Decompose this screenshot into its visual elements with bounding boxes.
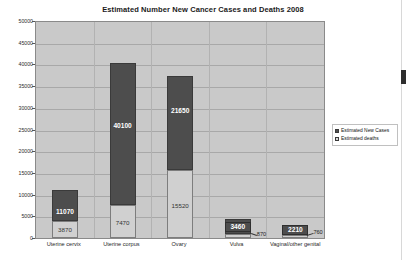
- x-axis-label: Uterine cervix: [35, 241, 93, 247]
- bar-label-deaths: 870: [257, 230, 266, 238]
- bar-label-new-cases: 2210: [282, 225, 308, 235]
- bar-vaginal-other-genital[interactable]: 2210 760: [282, 225, 308, 238]
- y-tick-label: 10000: [1, 192, 33, 198]
- gridline: [36, 65, 324, 66]
- x-axis: Uterine cervix Uterine corpus Ovary Vulv…: [35, 241, 325, 255]
- bar-segment-new-cases[interactable]: [52, 190, 78, 221]
- y-tick-label: 30000: [1, 105, 33, 111]
- bar-segment-new-cases[interactable]: [167, 76, 193, 170]
- x-axis-label: Vaginal/other genital: [265, 241, 325, 247]
- x-axis-label: Ovary: [150, 241, 208, 247]
- legend-label: Estimated New Cases: [341, 128, 389, 134]
- bar-label-deaths: 3870: [52, 226, 78, 234]
- page-edge-mark: [401, 70, 406, 84]
- bar-label-deaths: 760: [313, 228, 322, 236]
- x-axis-label: Uterine corpus: [93, 241, 151, 247]
- category-separator: [266, 22, 267, 238]
- bar-uterine-corpus[interactable]: 40100 7470: [110, 63, 136, 238]
- bar-uterine-cervix[interactable]: 11070 3870: [52, 190, 78, 238]
- bar-segment-new-cases[interactable]: [110, 63, 136, 205]
- y-tick-label: 15000: [1, 170, 33, 176]
- y-tick-label: 0: [1, 235, 33, 241]
- bar-segment-deaths[interactable]: [282, 235, 308, 238]
- category-separator: [209, 22, 210, 238]
- legend-item-new-cases[interactable]: Estimated New Cases: [335, 127, 395, 134]
- bar-label-deaths: 15520: [167, 202, 193, 210]
- bar-label-deaths: 7470: [110, 219, 136, 227]
- y-tick-label: 5000: [1, 213, 33, 219]
- legend-swatch-icon: [335, 137, 339, 141]
- bar-label-new-cases: 11070: [52, 208, 78, 216]
- category-separator: [151, 22, 152, 238]
- bar-ovary[interactable]: 21650 15520: [167, 76, 193, 238]
- category-separator: [94, 22, 95, 238]
- y-tick-label: 45000: [1, 40, 33, 46]
- bar-vulva[interactable]: 3460 870: [225, 219, 251, 238]
- chart-legend: Estimated New Cases Estimated deaths: [332, 124, 398, 146]
- chart-container: Estimated Number New Cancer Cases and De…: [0, 0, 406, 260]
- chart-title: Estimated Number New Cancer Cases and De…: [0, 5, 406, 14]
- legend-swatch-icon: [335, 129, 339, 133]
- y-tick-label: 20000: [1, 148, 33, 154]
- y-tick-label: 35000: [1, 83, 33, 89]
- y-tick-label: 40000: [1, 61, 33, 67]
- legend-label: Estimated deaths: [341, 136, 379, 142]
- bar-label-new-cases: 40100: [110, 122, 136, 130]
- y-axis: 50000 45000 40000 35000 30000 25000 2000…: [0, 21, 33, 239]
- page-edge-line: [401, 0, 402, 260]
- bar-segment-deaths[interactable]: [225, 234, 251, 238]
- y-tick-label: 25000: [1, 127, 33, 133]
- y-tick-label: 50000: [1, 18, 33, 24]
- gridline: [36, 44, 324, 45]
- legend-item-deaths[interactable]: Estimated deaths: [335, 135, 395, 142]
- bar-label-new-cases: 3460: [225, 222, 251, 232]
- bar-label-new-cases: 21650: [167, 107, 193, 115]
- x-axis-label: Vulva: [208, 241, 266, 247]
- plot-area: 11070 3870 40100 7470 21650 15520 3460 8…: [35, 21, 325, 239]
